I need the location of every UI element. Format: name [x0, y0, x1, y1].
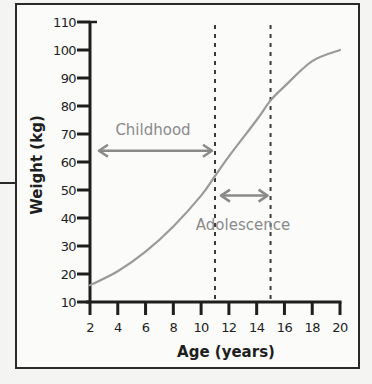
adolescence-label: Adolescence — [196, 216, 290, 234]
x-axis-title: Age (years) — [177, 343, 275, 361]
weight-age-chart: 1020304050607080901001102468101214161820… — [0, 0, 372, 384]
adolescence-arrow — [221, 190, 268, 202]
childhood-arrow — [99, 145, 212, 157]
x-tick-label: 8 — [169, 320, 177, 335]
y-tick-label: 80 — [61, 99, 77, 114]
y-tick-label: 70 — [61, 127, 77, 142]
x-tick-label: 12 — [221, 320, 236, 335]
y-tick-label: 110 — [53, 15, 76, 30]
y-tick-label: 30 — [61, 239, 77, 254]
y-tick-label: 100 — [53, 43, 76, 58]
y-tick-label: 40 — [61, 211, 77, 226]
y-axis-title: Weight (kg) — [28, 115, 46, 215]
x-tick-label: 16 — [277, 320, 293, 335]
childhood-label: Childhood — [115, 121, 190, 139]
x-tick-label: 2 — [86, 320, 94, 335]
x-tick-label: 6 — [142, 320, 150, 335]
y-tick-label: 60 — [61, 155, 77, 170]
annotations: ChildhoodAdolescence — [99, 121, 290, 234]
x-tick-label: 14 — [249, 320, 265, 335]
x-tick-label: 10 — [193, 320, 209, 335]
axes: 1020304050607080901001102468101214161820 — [53, 15, 348, 335]
y-tick-label: 50 — [61, 183, 77, 198]
y-tick-label: 10 — [61, 295, 77, 310]
x-tick-label: 20 — [332, 320, 348, 335]
y-tick-label: 90 — [61, 71, 77, 86]
x-tick-label: 4 — [114, 320, 122, 335]
y-tick-label: 20 — [61, 267, 77, 282]
x-tick-label: 18 — [305, 320, 321, 335]
weight-curve — [90, 50, 340, 285]
